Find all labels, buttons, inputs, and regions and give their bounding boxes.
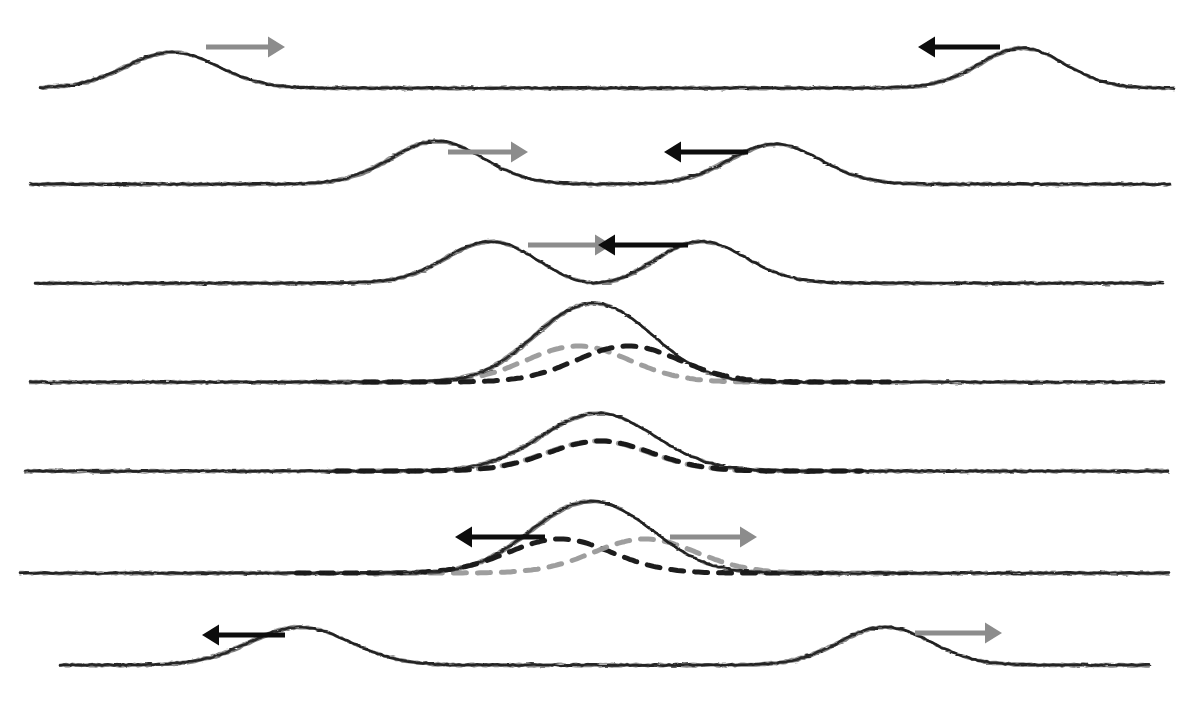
figure-canvas [0,0,1191,701]
wave-superposition-figure: Superposition of two wave pulses travell… [0,0,1191,701]
figure-background [0,0,1191,701]
